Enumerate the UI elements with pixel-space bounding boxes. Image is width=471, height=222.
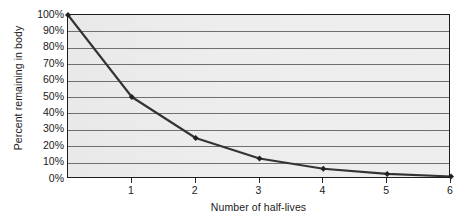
x-axis-tick-mark (259, 178, 260, 183)
x-axis-tick-marks (67, 178, 450, 183)
x-axis-tick-label: 1 (116, 184, 146, 196)
decay-curve-line (68, 15, 451, 176)
data-point-marker (257, 156, 263, 162)
x-axis-tick-mark (386, 178, 387, 183)
x-axis-tick-mark (131, 178, 132, 183)
x-axis-tick-mark (450, 178, 451, 183)
x-axis-tick-mark (322, 178, 323, 183)
y-axis-tick-label: 20% (22, 140, 64, 151)
y-axis-tick-label: 100% (22, 9, 64, 20)
y-axis-tick-label: 10% (22, 156, 64, 167)
y-axis-tick-label: 70% (22, 58, 64, 69)
x-axis-tick-mark (195, 178, 196, 183)
data-point-marker (384, 171, 390, 177)
x-axis-tick-label: 2 (180, 184, 210, 196)
y-axis-tick-label: 40% (22, 107, 64, 118)
x-axis-tick-label: 3 (244, 184, 274, 196)
y-axis-tick-label: 60% (22, 74, 64, 85)
data-point-marker (320, 166, 326, 172)
y-axis-tick-label: 50% (22, 91, 64, 102)
x-axis-title: Number of half-lives (67, 201, 450, 213)
y-axis-tick-label: 80% (22, 41, 64, 52)
y-axis-tick-label: 30% (22, 123, 64, 134)
x-axis-tick-labels: 123456 (0, 184, 471, 198)
y-axis-tick-label: 0% (22, 173, 64, 184)
y-axis-tick-label: 90% (22, 25, 64, 36)
decay-curve-svg (68, 15, 451, 179)
x-axis-tick-label: 4 (307, 184, 337, 196)
plot-area (67, 14, 450, 178)
half-life-decay-chart: Percent remaining in body 100%90%80%70%6… (0, 0, 471, 222)
x-axis-tick-label: 6 (435, 184, 465, 196)
x-axis-tick-label: 5 (371, 184, 401, 196)
